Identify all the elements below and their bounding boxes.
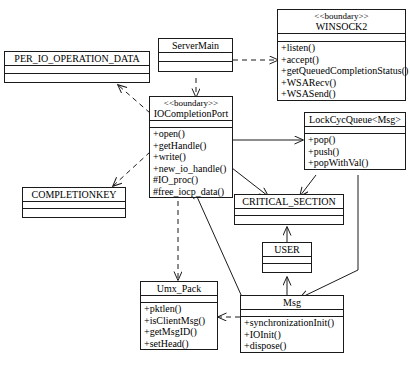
operation-item: #free_iocp_data() — [150, 186, 232, 198]
operation-item: +getMsgID() — [141, 326, 217, 338]
edge-iocompletionport-to-per-io-operation-data — [118, 85, 150, 113]
class-name-completionkey: COMPLETIONKEY — [23, 188, 125, 202]
class-title: LockCycQueue<Msg> — [309, 114, 401, 125]
operations-compartment: +pktlen() +isClientMsg() +getMsgID() +se… — [141, 303, 217, 349]
operations-compartment: +synchronizationInit() +IOInit() +dispos… — [241, 317, 343, 352]
operation-item: +getQueuedCompletionStatus() — [278, 65, 405, 77]
operation-item: +synchronizationInit() — [241, 317, 343, 329]
operation-item: +open() — [150, 128, 232, 140]
attributes-compartment — [305, 127, 405, 134]
class-msg[interactable]: Msg +synchronizationInit() +IOInit() +di… — [240, 295, 344, 353]
class-lockcycqueue[interactable]: LockCycQueue<Msg> +pop() +push() +popWit… — [304, 112, 406, 170]
operation-item: +dispose() — [241, 340, 343, 352]
class-title: COMPLETIONKEY — [32, 189, 117, 200]
stereotype-label: <<boundary>> — [153, 98, 229, 108]
attributes-compartment — [278, 34, 405, 42]
edge-iocompletionport-to-critical-section — [232, 168, 268, 196]
edge-iocompletionport-to-completionkey — [113, 152, 150, 186]
class-critical-section[interactable]: CRITICAL_SECTION — [234, 194, 344, 225]
class-name-lockcycqueue: LockCycQueue<Msg> — [305, 113, 405, 127]
operation-item: +WSARecv() — [278, 77, 405, 89]
operations-compartment: +pop() +push() +popWithVal() — [305, 134, 405, 169]
class-per-io-operation-data[interactable]: PER_IO_OPERATION_DATA — [4, 51, 150, 83]
operations-compartment — [235, 216, 343, 224]
operation-item: +push() — [305, 146, 405, 158]
class-title: WINSOCK2 — [316, 21, 368, 32]
class-name-winsock2: <<boundary>> WINSOCK2 — [278, 10, 405, 34]
uml-class-diagram-canvas: PER_IO_OPERATION_DATA ServerMain <<bound… — [0, 0, 410, 370]
class-title: PER_IO_OPERATION_DATA — [14, 53, 139, 64]
attributes-compartment — [263, 257, 311, 264]
stereotype-label: <<boundary>> — [281, 11, 402, 21]
class-completionkey[interactable]: COMPLETIONKEY — [22, 187, 126, 218]
class-title: USER — [274, 244, 300, 255]
class-name-iocompletionport: <<boundary>> IOCompletionPort — [150, 97, 232, 121]
attributes-compartment — [141, 296, 217, 303]
operation-item: +accept() — [278, 54, 405, 66]
operation-item: +new_io_handle() — [150, 163, 232, 175]
class-title: IOCompletionPort — [154, 108, 228, 119]
operation-item: +popWithVal() — [305, 157, 405, 169]
operations-compartment: +listen() +accept() +getQueuedCompletion… — [278, 42, 405, 100]
class-name-servermain: ServerMain — [159, 39, 232, 53]
operations-compartment: +open() +getHandle() +write() +new_io_ha… — [150, 128, 232, 197]
class-winsock2[interactable]: <<boundary>> WINSOCK2 +listen() +accept(… — [277, 9, 406, 101]
operations-compartment — [5, 74, 149, 82]
operation-item: +WSASend() — [278, 88, 405, 100]
operation-item: +listen() — [278, 42, 405, 54]
class-user[interactable]: USER — [262, 242, 312, 273]
operation-item: +getHandle() — [150, 140, 232, 152]
operations-list: +open() +getHandle() +write() +new_io_ha… — [150, 128, 232, 197]
class-title: ServerMain — [172, 40, 219, 51]
edge-lockcycqueue-to-critical-section — [300, 175, 316, 196]
operation-item: +IOInit() — [241, 329, 343, 341]
class-umx-pack[interactable]: Umx_Pack +pktlen() +isClientMsg() +getMs… — [140, 281, 218, 350]
operation-item: #IO_proc() — [150, 174, 232, 186]
class-title: Umx_Pack — [157, 283, 201, 294]
operations-compartment — [159, 62, 232, 71]
operations-list: +pktlen() +isClientMsg() +getMsgID() +se… — [141, 303, 217, 349]
operation-item: +pktlen() — [141, 303, 217, 315]
operation-item: +pop() — [305, 134, 405, 146]
class-servermain[interactable]: ServerMain — [158, 38, 233, 72]
attributes-compartment — [235, 209, 343, 216]
class-title: CRITICAL_SECTION — [242, 196, 335, 207]
class-title: Msg — [283, 297, 301, 308]
attributes-compartment — [159, 53, 232, 62]
class-name-critical-section: CRITICAL_SECTION — [235, 195, 343, 209]
class-iocompletionport[interactable]: <<boundary>> IOCompletionPort +open() +g… — [149, 96, 233, 198]
class-name-user: USER — [263, 243, 311, 257]
operations-list: +listen() +accept() +getQueuedCompletion… — [278, 42, 405, 100]
class-name-msg: Msg — [241, 296, 343, 310]
operations-compartment — [263, 264, 311, 272]
attributes-compartment — [150, 121, 232, 128]
operations-list: +synchronizationInit() +IOInit() +dispos… — [241, 317, 343, 352]
operations-compartment — [23, 209, 125, 217]
attributes-compartment — [241, 310, 343, 317]
operation-item: +isClientMsg() — [141, 315, 217, 327]
operation-item: +write() — [150, 151, 232, 163]
class-name-per-io-operation-data: PER_IO_OPERATION_DATA — [5, 52, 149, 66]
operation-item: +setHead() — [141, 338, 217, 350]
attributes-compartment — [23, 202, 125, 209]
attributes-compartment — [5, 66, 149, 74]
class-name-umx-pack: Umx_Pack — [141, 282, 217, 296]
operations-list: +pop() +push() +popWithVal() — [305, 134, 405, 169]
